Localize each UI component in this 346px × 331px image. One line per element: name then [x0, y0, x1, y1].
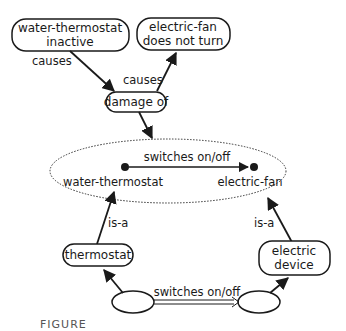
- node-electric-device: electric device: [259, 241, 330, 275]
- edge-label-causes-right: causes: [123, 73, 163, 87]
- edge-ellipse-to-thermostat: [104, 270, 123, 293]
- node-bottom-right-ellipse: [238, 291, 280, 313]
- edge-label-switches-bottom: switches on/off: [154, 285, 242, 299]
- edge-ellipse-to-electric-device: [270, 278, 288, 293]
- relation-context-ellipse: [50, 139, 286, 203]
- node-label: electric: [272, 244, 316, 258]
- point-electric-fan: [250, 163, 258, 171]
- concept-diagram: water-thermostat inactive electric-fan d…: [0, 0, 346, 331]
- node-water-thermostat-inactive: water-thermostat inactive: [12, 19, 129, 51]
- node-damage-of: damage of: [104, 92, 169, 112]
- node-label: electric-fan: [149, 20, 217, 34]
- point-water-thermostat: [121, 163, 129, 171]
- edge-causes-left: [70, 51, 114, 91]
- edge-label-causes-left: causes: [32, 54, 72, 68]
- node-label: inactive: [46, 35, 93, 49]
- node-label: thermostat: [65, 248, 132, 262]
- node-thermostat: thermostat: [63, 244, 133, 266]
- node-label: device: [274, 258, 313, 272]
- edge-damage-to-relation: [139, 112, 152, 138]
- node-label-electric-fan: electric-fan: [218, 175, 283, 189]
- node-bottom-left-ellipse: [112, 291, 154, 313]
- node-label: damage of: [104, 95, 169, 109]
- node-label: does not turn: [143, 34, 224, 48]
- edge-label-isa-left: is-a: [108, 216, 128, 230]
- node-label: water-thermostat: [18, 21, 123, 35]
- edge-label-isa-right: is-a: [254, 216, 274, 230]
- node-label-water-thermostat: water-thermostat: [63, 175, 163, 189]
- edge-label-switches-top: switches on/off: [144, 150, 232, 164]
- figure-caption: FIGURE: [40, 318, 320, 331]
- node-electric-fan-does-not-turn: electric-fan does not turn: [137, 18, 230, 50]
